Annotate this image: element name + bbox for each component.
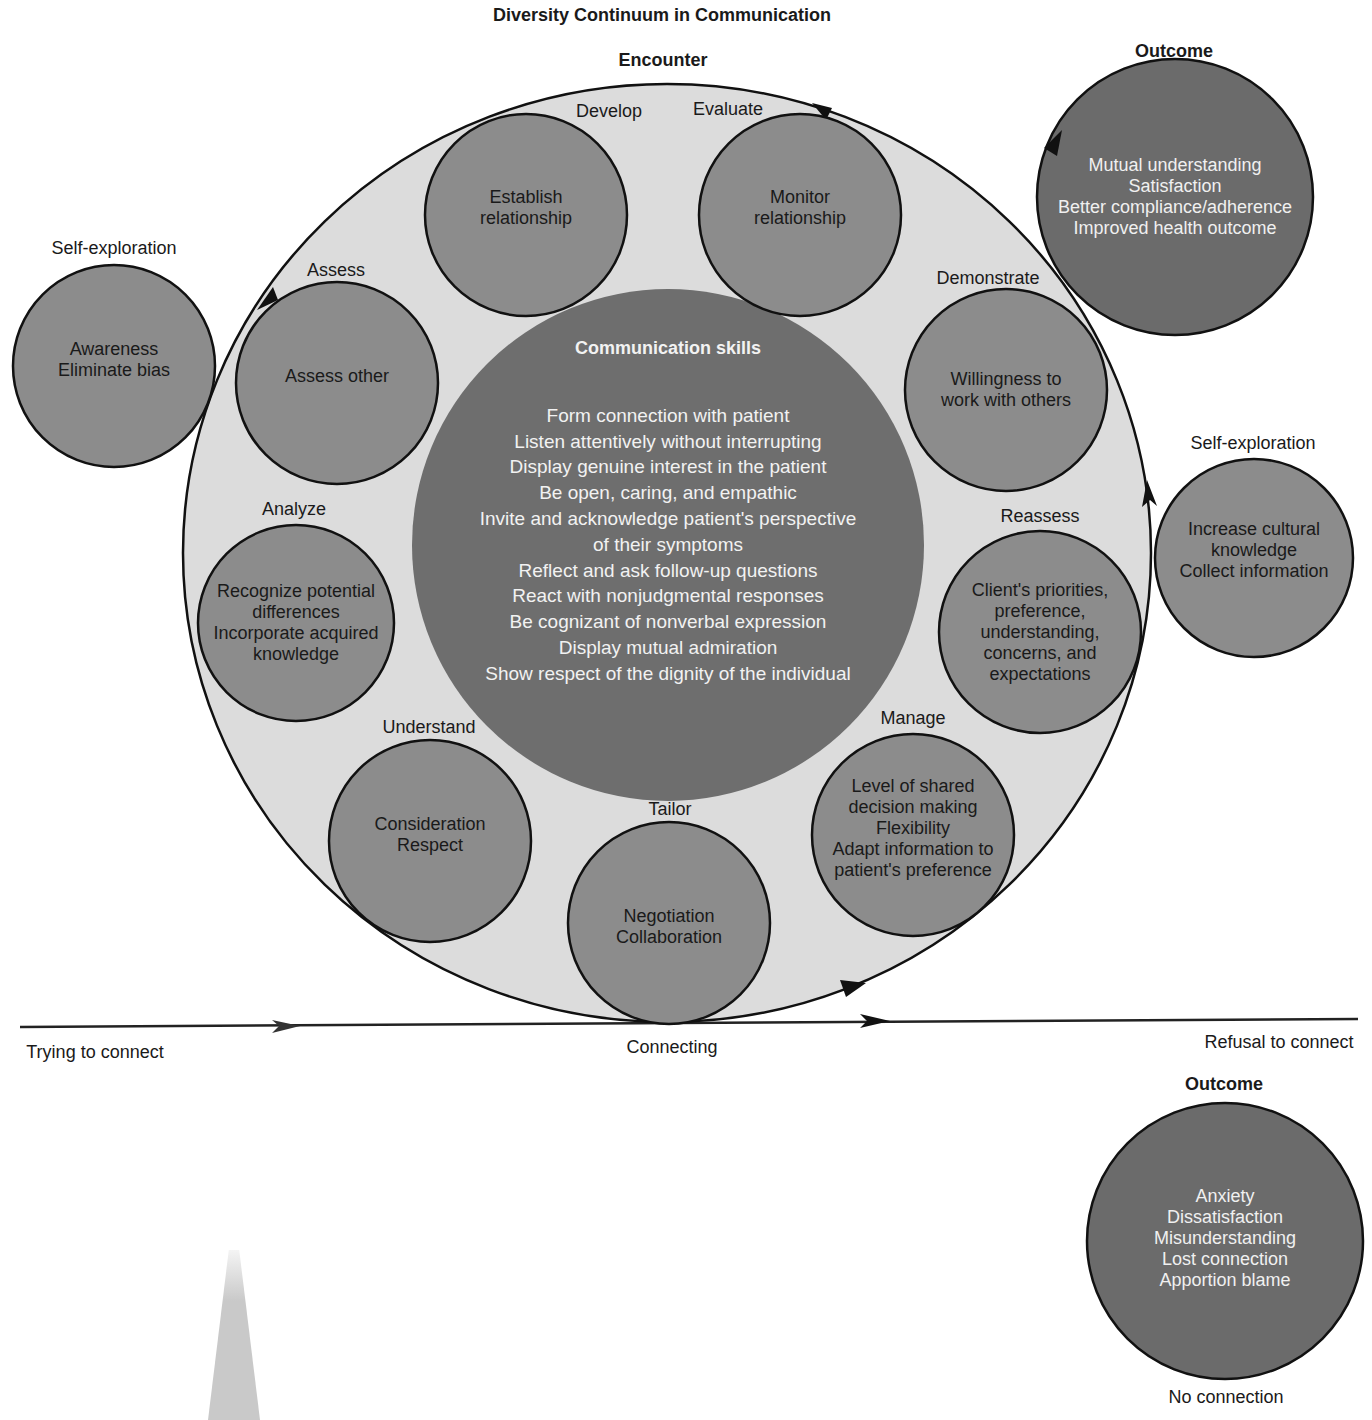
no-connection-caption: No connection: [1168, 1387, 1283, 1408]
stage-text-manage: Level of shareddecision makingFlexibilit…: [832, 776, 993, 881]
diagram-title: Diversity Continuum in Communication: [493, 5, 831, 26]
stage-text-develop: Establishrelationship: [480, 187, 572, 229]
stage-text-reassess: Client's priorities,preference,understan…: [972, 580, 1108, 685]
encounter-label: Encounter: [618, 50, 707, 71]
self-exploration-right-text: Increase culturalknowledgeCollect inform…: [1179, 519, 1328, 582]
self-exploration-right-label: Self-exploration: [1190, 433, 1315, 454]
stage-label-assess: Assess: [307, 260, 365, 281]
self-exploration-left-label: Self-exploration: [51, 238, 176, 259]
stage-label-reassess: Reassess: [1000, 506, 1079, 527]
communication-skills-title: Communication skills: [480, 336, 856, 362]
stage-text-assess: Assess other: [285, 366, 389, 387]
stage-label-demonstrate: Demonstrate: [936, 268, 1039, 289]
stage-text-evaluate: Monitorrelationship: [754, 187, 846, 229]
stage-text-understand: ConsiderationRespect: [374, 814, 485, 856]
stage-text-analyze: Recognize potentialdifferencesIncorporat…: [213, 581, 378, 665]
stage-label-evaluate: Evaluate: [693, 99, 763, 120]
stage-label-tailor: Tailor: [648, 799, 691, 820]
outcome-positive-label: Outcome: [1135, 41, 1213, 62]
continuum-end-label: Refusal to connect: [1204, 1032, 1353, 1053]
stage-label-analyze: Analyze: [262, 499, 326, 520]
continuum-start-label: Trying to connect: [26, 1042, 163, 1063]
stage-label-manage: Manage: [880, 708, 945, 729]
outcome-positive-text: Mutual understandingSatisfactionBetter c…: [1058, 155, 1292, 239]
stage-label-understand: Understand: [382, 717, 475, 738]
communication-skills-text: Communication skills Form connection wit…: [480, 336, 856, 687]
continuum-middle-label: Connecting: [626, 1037, 717, 1058]
outcome-negative-label: Outcome: [1185, 1074, 1263, 1095]
outcome-negative-text: AnxietyDissatisfactionMisunderstandingLo…: [1154, 1186, 1296, 1291]
stage-text-demonstrate: Willingness towork with others: [941, 369, 1071, 411]
stage-text-tailor: NegotiationCollaboration: [616, 906, 722, 948]
self-exploration-left-text: AwarenessEliminate bias: [58, 339, 170, 381]
stage-label-develop: Develop: [576, 101, 642, 122]
